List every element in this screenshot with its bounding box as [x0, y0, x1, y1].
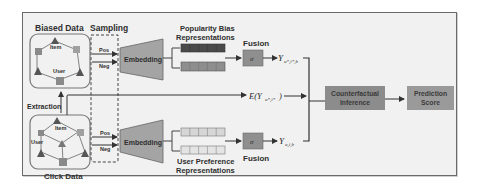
- output-bottom-subscript: u,i,b: [285, 142, 294, 148]
- svg-text:E(Y: E(Y: [248, 91, 263, 101]
- pos-label: Pos: [99, 47, 109, 53]
- bias-vector-medium: [181, 62, 225, 71]
- output-y-preference: Y u,i,b: [279, 136, 294, 148]
- click-item-label: Item: [55, 125, 66, 131]
- biased-item-label: Item: [50, 44, 61, 50]
- click-user-label: User: [31, 139, 44, 145]
- item-triangle-node: [53, 117, 61, 124]
- pref-vector-bottom: [181, 146, 225, 154]
- pos-label: Pos: [100, 130, 110, 136]
- embedding-bottom-label: Embedding: [124, 139, 162, 147]
- item-triangle-node: [76, 68, 84, 76]
- pref-vector-top: [181, 128, 225, 136]
- neg-label: Neg: [100, 146, 110, 152]
- sigma-icon: σ: [250, 138, 254, 146]
- prediction-score-box: Prediction Score: [407, 86, 454, 110]
- counterfactual-line2: Inference: [340, 99, 370, 106]
- extraction-label: Extraction: [27, 103, 61, 110]
- counterfactual-inference-box: Counterfactual Inference: [325, 86, 385, 110]
- popularity-bias-title-line1: Popularity Bias: [180, 24, 235, 33]
- user-square-node: [38, 130, 44, 136]
- prediction-line2: Score: [421, 99, 440, 106]
- output-top-subscript: u*,i*,b: [284, 59, 298, 65]
- fusion-top-title: Fusion: [243, 39, 269, 48]
- expectation-subscript: u*,i*: [265, 97, 276, 103]
- user-square-node: [35, 48, 42, 55]
- svg-text:): ): [278, 91, 282, 101]
- biased-user-label: User: [53, 68, 66, 74]
- fusion-top: Fusion σ: [243, 39, 269, 66]
- expectation-path-arrow: [67, 95, 246, 115]
- diagram-canvas: Biased Data Item User Extraction Item Us…: [0, 0, 477, 194]
- embedding-bottom: Embedding: [120, 120, 163, 163]
- popularity-bias-representations: Popularity Bias Representations: [176, 24, 235, 71]
- embedding-top-label: Embedding: [124, 56, 162, 64]
- embedding-top: Embedding: [120, 39, 163, 80]
- user-preference-title-line1: User Preference: [177, 157, 235, 166]
- biased-data-title: Biased Data: [35, 23, 84, 33]
- sampling-title: Sampling: [90, 23, 128, 33]
- user-square-node: [77, 129, 84, 136]
- counterfactual-line1: Counterfactual: [331, 90, 379, 97]
- item-triangle-node: [51, 37, 59, 44]
- user-square-node: [56, 77, 64, 85]
- user-preference-representations: User Preference Representations: [176, 128, 235, 175]
- fusion-bottom-title: Fusion: [243, 154, 269, 163]
- item-triangle-node: [34, 67, 42, 75]
- output-y-biased: Y u*,i*,b: [278, 53, 298, 65]
- user-preference-title-line2: Representations: [176, 166, 235, 175]
- output-expectation: E(Y u*,i* ): [248, 91, 282, 103]
- user-square-node: [73, 46, 80, 53]
- prediction-line1: Prediction: [414, 90, 447, 97]
- click-data-title: Click Data: [44, 172, 83, 181]
- bias-vector-dark: [181, 44, 225, 52]
- user-square-node: [59, 158, 67, 166]
- biased-data-graph: Biased Data Item User: [30, 23, 90, 88]
- neg-label: Neg: [99, 63, 109, 69]
- click-data-graph: Item User Click Data: [30, 115, 90, 181]
- merge-bracket: [303, 58, 309, 141]
- fusion-bottom: σ Fusion: [243, 133, 269, 163]
- sigma-icon: σ: [250, 55, 254, 63]
- popularity-bias-title-line2: Representations: [176, 33, 235, 42]
